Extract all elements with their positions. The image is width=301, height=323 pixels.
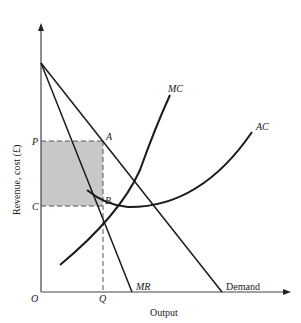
- origin-label: O: [31, 293, 38, 304]
- point-b-label: B: [105, 195, 111, 206]
- x-axis-arrow-icon: [283, 289, 291, 295]
- monopoly-profit-diagram: Revenue, cost (£) Output O P C Q A B MC …: [0, 0, 301, 323]
- ac-curve: [87, 132, 252, 207]
- point-a-label: A: [105, 131, 113, 142]
- price-label: P: [31, 136, 38, 147]
- y-axis-arrow-icon: [38, 23, 44, 31]
- mr-label: MR: [135, 281, 150, 292]
- quantity-label: Q: [99, 293, 107, 304]
- demand-label: Demand: [226, 281, 260, 292]
- y-axis-title: Revenue, cost (£): [11, 145, 23, 215]
- cost-label: C: [32, 201, 39, 212]
- x-axis-title: Output: [150, 307, 178, 318]
- diagram-canvas: Revenue, cost (£) Output O P C Q A B MC …: [0, 0, 301, 323]
- mc-label: MC: [167, 83, 183, 94]
- ac-label: AC: [255, 121, 269, 132]
